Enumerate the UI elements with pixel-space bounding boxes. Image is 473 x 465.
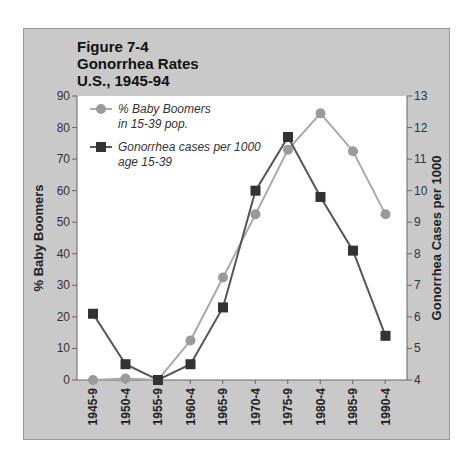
legend-item-boomers: % Baby Boomers in 15-39 pop. xyxy=(88,102,261,132)
chart-plot: 0102030405060708090456789101112131945-91… xyxy=(0,0,473,465)
circle-marker-icon xyxy=(316,108,326,118)
x-tick-label: 1955-9 xyxy=(151,388,165,426)
legend-label: % Baby Boomers xyxy=(118,102,261,117)
circle-marker-icon xyxy=(218,272,228,282)
right-tick-label: 6 xyxy=(414,310,421,324)
left-tick-label: 0 xyxy=(63,373,70,387)
x-tick-label: 1970-4 xyxy=(249,388,263,426)
right-tick-label: 5 xyxy=(414,341,421,355)
square-marker-icon xyxy=(96,142,106,152)
square-marker-icon xyxy=(88,309,98,319)
right-tick-label: 4 xyxy=(414,373,421,387)
square-marker-icon xyxy=(348,246,358,256)
circle-marker-icon xyxy=(121,373,131,383)
square-marker-icon xyxy=(153,375,163,385)
circle-marker-icon xyxy=(381,209,391,219)
right-tick-label: 9 xyxy=(414,215,421,229)
circle-marker-icon xyxy=(186,336,196,346)
circle-marker-icon xyxy=(251,209,261,219)
x-tick-label: 1975-9 xyxy=(281,388,295,426)
left-tick-label: 20 xyxy=(57,310,71,324)
square-marker-icon xyxy=(381,331,391,341)
square-marker-icon xyxy=(283,132,293,142)
right-tick-label: 13 xyxy=(414,89,428,103)
x-tick-label: 1985-9 xyxy=(346,388,360,426)
left-axis-label: % Baby Boomers xyxy=(31,185,46,292)
legend-item-gonorrhea: Gonorrhea cases per 1000 age 15-39 xyxy=(88,140,261,170)
x-tick-label: 1950-4 xyxy=(119,388,133,426)
left-tick-label: 60 xyxy=(57,184,71,198)
x-tick-label: 1965-9 xyxy=(216,388,230,426)
chart-legend: % Baby Boomers in 15-39 pop. Gonorrhea c… xyxy=(88,102,261,178)
circle-marker-icon xyxy=(88,375,98,385)
left-tick-label: 80 xyxy=(57,121,71,135)
left-tick-label: 40 xyxy=(57,247,71,261)
left-tick-label: 30 xyxy=(57,278,71,292)
legend-label: age 15-39 xyxy=(118,155,261,170)
right-tick-label: 11 xyxy=(414,152,427,166)
square-marker-icon xyxy=(316,192,326,202)
right-tick-label: 10 xyxy=(414,184,428,198)
left-tick-label: 70 xyxy=(57,152,71,166)
square-marker-icon xyxy=(251,186,261,196)
x-tick-label: 1990-4 xyxy=(379,388,393,426)
right-tick-label: 12 xyxy=(414,121,428,135)
right-tick-label: 7 xyxy=(414,278,421,292)
x-tick-label: 1980-4 xyxy=(314,388,328,426)
circle-marker-icon xyxy=(96,104,106,114)
square-marker-icon xyxy=(186,359,196,369)
circle-marker-icon xyxy=(283,145,293,155)
x-tick-label: 1945-9 xyxy=(86,388,100,426)
circle-marker-icon xyxy=(348,146,358,156)
left-tick-label: 50 xyxy=(57,215,71,229)
legend-label: in 15-39 pop. xyxy=(118,117,261,132)
square-marker-icon xyxy=(121,359,131,369)
left-tick-label: 10 xyxy=(57,341,71,355)
x-tick-label: 1960-4 xyxy=(184,388,198,426)
left-tick-label: 90 xyxy=(57,89,71,103)
legend-label: Gonorrhea cases per 1000 xyxy=(118,140,261,155)
square-marker-icon xyxy=(218,302,228,312)
right-tick-label: 8 xyxy=(414,247,421,261)
right-axis-label: Gonorrhea Cases per 1000 xyxy=(429,156,444,321)
